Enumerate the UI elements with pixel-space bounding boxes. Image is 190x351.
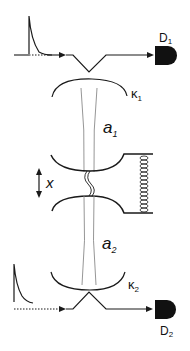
displacement-x-label: x: [45, 174, 54, 191]
mode-a2-label: a2: [102, 234, 116, 255]
arrow-head-icon: [146, 306, 153, 312]
arrow-head-icon: [59, 52, 66, 58]
cavity-beam-1: [81, 88, 97, 172]
beam-path-top: [48, 52, 154, 72]
spring-icon: [140, 156, 148, 212]
diagram-canvas: D1 κ1 a1 x: [0, 0, 190, 351]
detector-d2: [155, 300, 176, 319]
input-pulse-bottom: [14, 264, 33, 303]
mode-a1-label: a1: [103, 118, 117, 139]
detector-d1-label: D1: [159, 31, 173, 46]
arrow-head-icon: [59, 306, 66, 312]
double-arrow-icon: [36, 168, 42, 198]
mirror-top: [52, 79, 127, 97]
detector-icon: [155, 46, 177, 65]
mirror-bottom: [51, 272, 125, 290]
detector-d1: [155, 46, 177, 65]
beam-path-bottom: [14, 292, 153, 312]
cavity-beam-2: [82, 196, 96, 285]
detector-icon: [155, 300, 176, 319]
arrow-head-icon: [147, 52, 154, 58]
coupling-k1-label: κ1: [131, 86, 143, 103]
mechanical-mirrors: [51, 154, 153, 213]
detector-d2-label: D2: [160, 324, 174, 339]
coupling-k2-label: κ2: [128, 277, 140, 294]
input-pulse-top: [14, 16, 52, 55]
